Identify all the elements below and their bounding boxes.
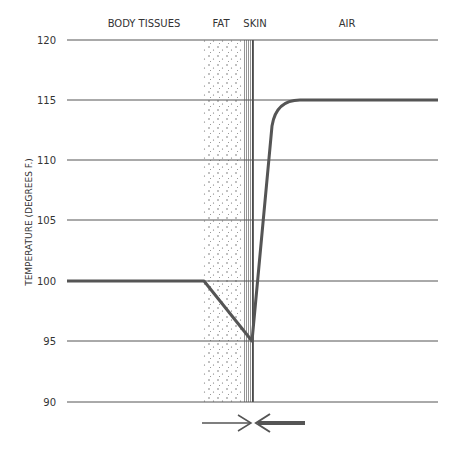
temperature-chart: BODY TISSUES FAT SKIN AIR 120 115 110 10… bbox=[0, 0, 458, 453]
fat-layer bbox=[202, 40, 243, 402]
y-axis-label: TEMPERATURE (DEGREES F.) bbox=[24, 158, 34, 287]
region-label-body-tissues: BODY TISSUES bbox=[108, 18, 181, 29]
region-label-skin: SKIN bbox=[243, 18, 266, 29]
y-tick-115: 115 bbox=[37, 95, 56, 106]
y-tick-100: 100 bbox=[37, 276, 56, 287]
y-tick-95: 95 bbox=[43, 336, 56, 347]
skin-layer bbox=[243, 40, 253, 402]
y-tick-90: 90 bbox=[43, 397, 56, 408]
heat-flow-arrows bbox=[202, 414, 305, 432]
y-tick-labels: 120 115 110 105 100 95 90 bbox=[37, 35, 56, 408]
region-label-air: AIR bbox=[339, 18, 356, 29]
y-tick-120: 120 bbox=[37, 35, 56, 46]
y-tick-110: 110 bbox=[37, 155, 56, 166]
y-tick-105: 105 bbox=[37, 215, 56, 226]
region-label-fat: FAT bbox=[212, 18, 230, 29]
